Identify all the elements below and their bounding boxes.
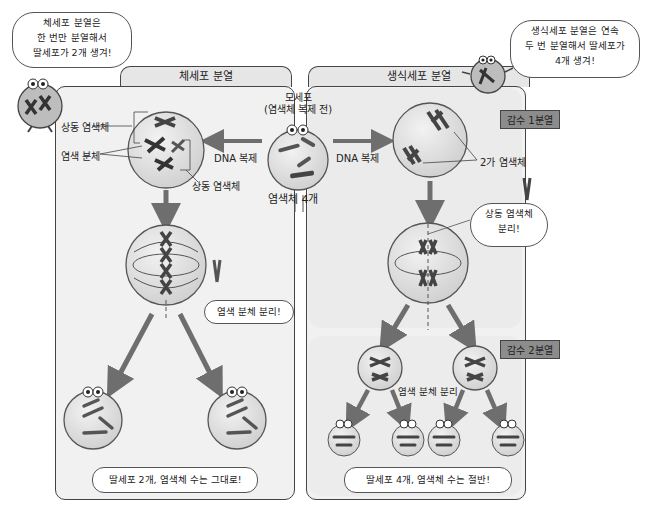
mitosis-daughter-right — [208, 387, 266, 449]
mother-cell-title: 모세포 (염색체 복제 전) — [262, 92, 334, 116]
mother-cell-title-line-1: 모세포 — [262, 92, 334, 104]
homologous-chromosome-label-bottom: 상동 염색체 — [192, 178, 240, 193]
sister-chromatid-label: 염색 분체 — [61, 148, 100, 163]
meiosis-stage2-badge: 감수 2분열 — [500, 340, 560, 359]
meiosis-daughter-cells — [328, 420, 524, 456]
homologous-bubble-line-2: 분리! — [471, 221, 547, 236]
meiosis-mascot-bubble: 생식세포 분열은 연속 두 번 분열해서 딸세포가 4개 생겨! — [510, 20, 640, 78]
mitosis-bubble-line-1: 체세포 분열은 — [13, 15, 131, 30]
mother-cell-title-line-2: (염색체 복제 전) — [262, 104, 334, 116]
meiosis-dna-replication-label: DNA 복제 — [336, 150, 379, 165]
mitosis-daughter-left — [64, 387, 122, 449]
mitosis-mascot — [18, 79, 62, 132]
chromatid-separation-bubble: 염색 분체 분리! — [204, 300, 294, 324]
mitosis-bubble-line-2: 한 번만 분열해서 — [13, 30, 131, 45]
mitosis-mascot-bubble: 체세포 분열은 한 번만 분열해서 딸세포가 2개 생겨! — [12, 12, 132, 68]
mitosis-bubble-line-3: 딸세포가 2개 생겨! — [13, 45, 131, 60]
mitosis-result-bubble: 딸세포 2개, 염색체 수는 그대로! — [92, 467, 258, 493]
mitosis-dna-replication-label: DNA 복제 — [214, 150, 257, 165]
meiosis-chromatid-separation-label: 염색 분체 분리 — [398, 384, 458, 398]
meiosis-result-bubble: 딸세포 4개, 염색체 수는 절반! — [344, 467, 512, 493]
mother-chromosome-count: 염색체 4개 — [268, 190, 319, 206]
mother-cell — [268, 125, 328, 190]
homologous-bubble-line-1: 상동 염색체 — [471, 206, 547, 221]
meiosis-bubble-line-3: 4개 생겨! — [511, 53, 639, 68]
meiosis-mascot — [462, 56, 513, 93]
homologous-separation-bubble: 상동 염색체 분리! — [470, 203, 548, 247]
meiosis-stage1-badge: 감수 1분열 — [500, 110, 560, 129]
homologous-chromosome-label-top: 상동 염색체 — [61, 119, 109, 134]
bivalent-label: 2가 염색체 — [480, 154, 526, 169]
meiosis-bubble-line-2: 두 번 분열해서 딸세포가 — [511, 38, 639, 53]
meiosis-bubble-line-1: 생식세포 분열은 연속 — [511, 23, 639, 38]
